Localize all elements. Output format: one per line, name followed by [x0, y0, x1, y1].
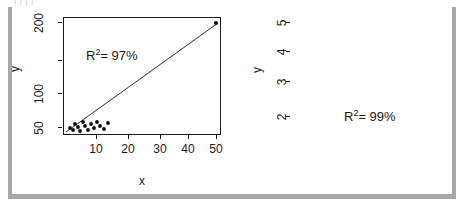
panel-right: y 5 4 3 2	[232, 0, 465, 207]
left-xtick-mark-50	[216, 135, 217, 139]
right-r2-annotation: R2= 99%	[344, 108, 396, 124]
left-r2-prefix: R	[86, 48, 95, 63]
left-regression-line	[66, 23, 218, 132]
right-ytick-label-2: 2	[275, 106, 289, 128]
left-xtick-mark-40	[188, 135, 189, 139]
left-plot-box	[63, 17, 221, 135]
left-ytick-mark-150	[58, 60, 62, 61]
left-xtick-mark-30	[160, 135, 161, 139]
left-xtick-mark-20	[128, 135, 129, 139]
right-y-axis-title: y	[250, 60, 264, 80]
right-ytick-mark-5	[286, 22, 290, 23]
left-xtick-label-40: 40	[174, 142, 202, 156]
left-xtick-label-10: 10	[82, 142, 110, 156]
figure-canvas: | | | | y 200 100 50	[0, 0, 465, 207]
right-ytick-label-5: 5	[275, 12, 289, 34]
right-ytick-mark-2	[286, 116, 290, 117]
left-plot-area	[64, 18, 220, 134]
right-ytick-label-4: 4	[275, 41, 289, 63]
right-ytick-label-3: 3	[275, 71, 289, 93]
right-r2-value: = 99%	[358, 109, 395, 124]
left-ytick-mark-50	[58, 127, 62, 128]
right-ytick-mark-3	[286, 81, 290, 82]
left-ytick-mark-200	[58, 22, 62, 23]
left-xtick-label-30: 30	[146, 142, 174, 156]
left-ytick-label-100: 100	[32, 79, 46, 109]
left-xtick-label-20: 20	[114, 142, 142, 156]
panel-left: y 200 100 50	[0, 0, 233, 207]
left-scatter-svg	[64, 18, 220, 134]
right-r2-prefix: R	[344, 109, 353, 124]
right-ytick-mark-4	[286, 51, 290, 52]
left-y-axis-title: y	[8, 59, 22, 79]
left-r2-annotation: R2= 97%	[86, 47, 138, 63]
left-xtick-label-50: 50	[202, 142, 230, 156]
left-ytick-label-50: 50	[32, 117, 46, 139]
left-x-axis-title: x	[128, 174, 156, 188]
left-xtick-mark-10	[96, 135, 97, 139]
left-ytick-mark-100	[58, 93, 62, 94]
left-r2-value: = 97%	[100, 48, 137, 63]
left-ytick-label-200: 200	[32, 8, 46, 38]
